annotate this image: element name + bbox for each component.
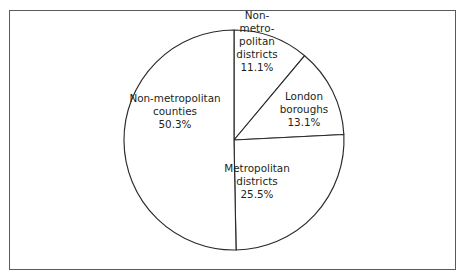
pie-label-non-metropolitan-districts: Non-metro-politandistricts11.1% — [236, 9, 277, 74]
pie-slice-group — [124, 30, 344, 250]
pie-chart-svg: Non-metro-politandistricts11.1%Londonbor… — [0, 0, 466, 278]
pie-chart-figure: Non-metro-politandistricts11.1%Londonbor… — [0, 0, 466, 278]
pie-slice-non-metropolitan-counties[interactable] — [124, 30, 236, 250]
chart-plot-area: Non-metro-politandistricts11.1%Londonbor… — [0, 0, 466, 278]
